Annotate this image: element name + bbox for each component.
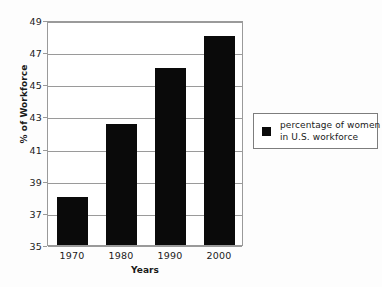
y-tick-mark (43, 214, 47, 215)
y-tick-mark (43, 53, 47, 54)
y-tick-label: 49 (14, 16, 42, 27)
legend: percentage of women in U.S. workforce (253, 113, 378, 149)
legend-label-line-2: in U.S. workforce (280, 131, 380, 143)
x-tick-label: 1980 (97, 250, 145, 261)
bar-chart-figure: 4947454341393735 % of Workforce 19701980… (0, 0, 382, 287)
y-tick-mark (43, 85, 47, 86)
legend-label: percentage of women in U.S. workforce (280, 119, 380, 143)
y-tick-mark (43, 182, 47, 183)
y-tick-mark (43, 21, 47, 22)
y-tick-mark (43, 246, 47, 247)
legend-swatch-icon (262, 127, 271, 136)
y-tick-label: 39 (14, 176, 42, 187)
legend-label-line-1: percentage of women (280, 119, 380, 131)
y-tick-mark (43, 150, 47, 151)
x-tick-label: 2000 (195, 250, 243, 261)
x-axis-title: Years (47, 265, 243, 275)
x-tick-label: 1970 (48, 250, 96, 261)
x-tick-label: 1990 (146, 250, 194, 261)
x-axis-tick-labels: 1970198019902000 (47, 250, 243, 264)
y-tick-mark (43, 117, 47, 118)
y-tick-label: 37 (14, 208, 42, 219)
y-axis-title: % of Workforce (19, 44, 29, 164)
y-tick-label: 35 (14, 241, 42, 252)
